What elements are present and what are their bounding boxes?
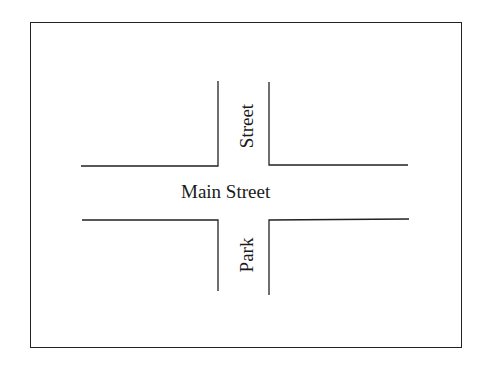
road-edge-upper-left bbox=[81, 81, 218, 166]
park-street-label: Park bbox=[236, 230, 258, 280]
road-edge-lower-right bbox=[269, 219, 409, 295]
north-street-label: Street bbox=[236, 101, 258, 151]
road-edge-upper-right bbox=[269, 82, 408, 165]
road-edge-lower-left bbox=[82, 220, 218, 291]
main-street-label: Main Street bbox=[181, 181, 270, 203]
